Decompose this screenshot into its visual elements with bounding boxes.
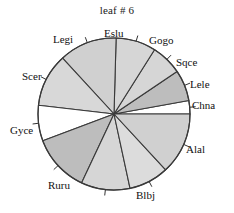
leader-tick-sqce <box>167 55 171 59</box>
slice-label-alal: Alal <box>186 144 205 155</box>
slice-label-sqce: Sqce <box>176 57 197 68</box>
leader-tick-eslu <box>85 37 87 43</box>
leader-tick-ruru <box>105 190 106 196</box>
leader-tick-gyce <box>54 166 58 170</box>
slice-label-eslu: Eslu <box>104 28 124 39</box>
pie-chart-figure: leaf # 6 Eslu Gogo Sqce Lele Chna Alal B… <box>0 0 234 213</box>
slice-label-blbj: Blbj <box>136 190 155 201</box>
slice-label-gogo: Gogo <box>149 35 173 46</box>
slice-label-lele: Lele <box>190 79 210 90</box>
slice-label-gyce: Gyce <box>10 125 33 136</box>
slice-label-scer: Scer <box>22 71 42 82</box>
leader-tick-blbj <box>149 181 152 186</box>
slice-label-legi: Legi <box>53 34 73 45</box>
pie-slices-group <box>38 38 190 190</box>
slice-label-ruru: Ruru <box>48 180 70 191</box>
slice-label-chna: Chna <box>192 100 215 111</box>
leader-tick-gogo <box>136 36 138 42</box>
leader-tick-scer <box>33 123 39 124</box>
